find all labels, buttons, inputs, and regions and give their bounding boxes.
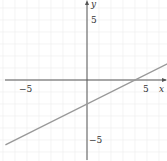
graph: x y −5 5 5 −5 bbox=[0, 0, 167, 161]
y-tick-label-neg5: −5 bbox=[89, 135, 103, 145]
y-axis-arrow-icon bbox=[85, 0, 89, 5]
y-axis-label: y bbox=[90, 0, 97, 9]
x-axis-arrow-icon bbox=[162, 78, 167, 82]
y-tick-label-5: 5 bbox=[91, 15, 97, 25]
x-tick-label-5: 5 bbox=[143, 84, 149, 94]
x-axis-label: x bbox=[159, 84, 164, 94]
x-tick-label-neg5: −5 bbox=[19, 84, 33, 94]
line-series bbox=[5, 64, 167, 145]
